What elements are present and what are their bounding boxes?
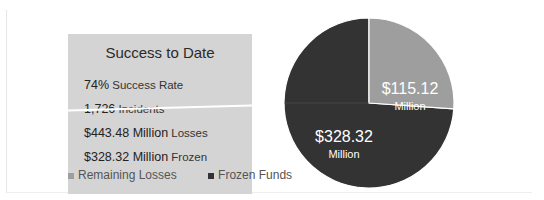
label-remaining-unit: Million — [394, 100, 425, 112]
pie-chart: $115.12 Million $328.32 Million — [280, 14, 460, 194]
stat-losses: $443.48 Million Losses — [84, 126, 208, 140]
label-frozen-unit: Million — [328, 148, 359, 160]
legend-swatch-icon — [208, 173, 214, 179]
label-frozen-amount: $328.32 — [315, 128, 373, 145]
label-remaining-amount: $115.12 — [382, 80, 439, 97]
stat-success-rate: 74% Success Rate — [84, 78, 183, 92]
legend-swatch-icon — [68, 173, 74, 179]
legend-remaining-losses: Remaining Losses — [68, 168, 191, 182]
stat-frozen: $328.32 Million Frozen — [84, 150, 207, 164]
panel-title: Success to Date — [68, 44, 252, 61]
